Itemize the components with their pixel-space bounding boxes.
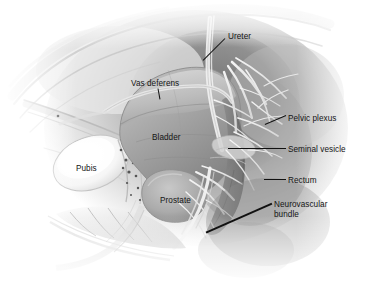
label-pelvic-plexus: Pelvic plexus <box>288 114 336 124</box>
label-vas-deferens: Vas deferens <box>131 79 179 89</box>
label-ureter: Ureter <box>228 32 251 42</box>
seminal-vesicle-leader <box>228 148 286 149</box>
anatomy-illustration <box>0 0 366 286</box>
fade-right <box>296 0 366 286</box>
label-seminal-vesicle: Seminal vesicle <box>288 145 346 155</box>
anatomy-figure: UreterVas deferensPelvic plexusBladderSe… <box>0 0 366 286</box>
label-bladder: Bladder <box>152 133 181 143</box>
label-pubis: Pubis <box>76 164 97 174</box>
rectum-leader <box>264 179 286 180</box>
label-neurovascular-bundle: Neurovascular bundle <box>274 200 332 219</box>
label-rectum: Rectum <box>288 176 317 186</box>
label-prostate: Prostate <box>160 196 191 206</box>
